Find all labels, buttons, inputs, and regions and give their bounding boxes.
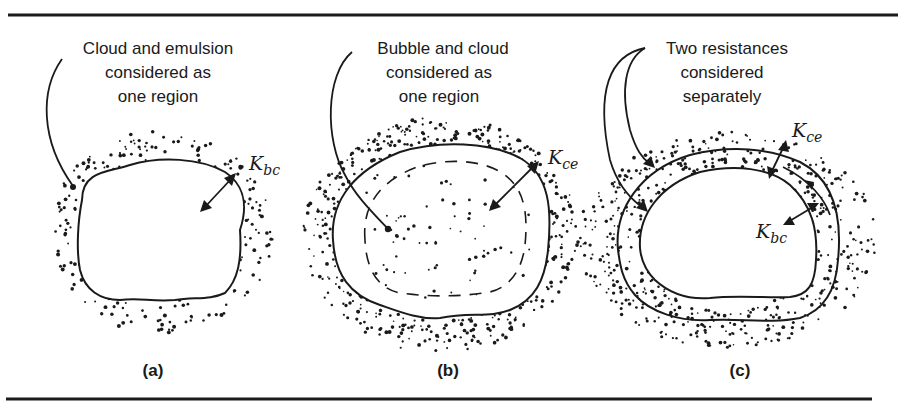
panel-a-caption-line-3: one region [118,87,198,106]
panel-a-bubble-boundary [78,160,244,301]
panel-b-caption-line-1: Bubble and cloud [377,39,508,58]
panel-c: Kce Kbc Two resistances considered separ… [579,39,876,380]
panel-a-kbc-label: Kbc [248,152,280,178]
panel-c-caption-line-1: Two resistances [666,39,788,58]
panel-b: Kce Bubble and cloud considered as one r… [303,39,580,380]
panel-a-leader-dot [70,184,76,190]
panel-a-caption-line-1: Cloud and emulsion [83,39,233,58]
panel-c-caption-line-3: separately [683,87,762,106]
panel-b-caption-line-3: one region [399,87,479,106]
panel-a-caption-line-2: considered as [105,63,211,82]
panel-b-caption-line-2: considered as [386,63,492,82]
panel-b-label: (b) [437,361,459,380]
panel-c-leader-line-outer [604,48,645,207]
panel-c-bubble-boundary [640,168,816,298]
panel-c-leader-line-inner [625,48,650,164]
panel-c-leader-arrowhead-inner [643,156,655,168]
panel-a: Kbc Cloud and emulsion considered as one… [47,39,280,380]
panel-c-kce-label: Kce [791,119,822,145]
panel-c-caption-line-2: considered [680,63,763,82]
panel-c-kce-double-arrow [767,140,789,179]
bubble-cloud-mass-transfer-diagram: Kbc Cloud and emulsion considered as one… [0,0,898,420]
panel-a-leader-line [47,59,73,186]
panel-c-label: (c) [730,361,751,380]
panel-a-label: (a) [143,361,164,380]
panel-b-leader-dot [385,226,391,232]
panel-b-kce-label: Kce [547,146,578,172]
